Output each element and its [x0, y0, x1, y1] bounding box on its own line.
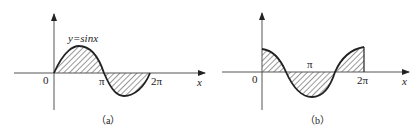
curve-label: y=sinx [67, 32, 98, 44]
hatched-area-left [262, 49, 286, 72]
x-axis-label: x [196, 76, 202, 88]
two-pi-label: 2π [151, 75, 163, 87]
x-axis-label: x [401, 75, 407, 87]
caption-a: （a） [96, 115, 120, 126]
panel-b: 0 π 2π x （b） [222, 13, 409, 126]
diagram-canvas: y=sinx 0 π 2π x （a） 0 π 2π x （b） [0, 0, 419, 138]
panel-a: y=sinx 0 π 2π x （a） [14, 14, 205, 126]
origin-label: 0 [43, 74, 49, 86]
origin-label: 0 [252, 73, 258, 85]
caption-b: （b） [305, 115, 330, 126]
hatched-area-right [335, 47, 364, 72]
two-pi-label: 2π [357, 74, 369, 86]
pi-label: π [307, 58, 313, 70]
pi-label: π [99, 75, 105, 87]
